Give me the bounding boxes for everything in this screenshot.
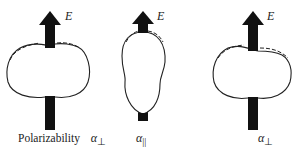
caption-left: Polarizability α⊥ xyxy=(18,131,106,146)
field-label-e-middle: E xyxy=(157,9,164,24)
caption-middle: α|| xyxy=(136,131,146,146)
polarizability-surface-perp xyxy=(213,47,291,99)
middle-panel xyxy=(122,11,165,121)
caption-prefix: Polarizability xyxy=(18,132,80,144)
subscript-perp: ⊥ xyxy=(97,136,106,147)
field-label-e-left: E xyxy=(65,9,72,24)
polarizability-surface-perp xyxy=(7,44,90,98)
caption-right: α⊥ xyxy=(258,131,273,146)
subscript-parallel: || xyxy=(142,136,146,147)
field-label-e-right: E xyxy=(267,9,274,24)
subscript-perp: ⊥ xyxy=(264,136,273,147)
polarizability-surface-parallel xyxy=(122,32,165,114)
left-panel xyxy=(7,11,90,130)
right-panel xyxy=(213,11,291,130)
